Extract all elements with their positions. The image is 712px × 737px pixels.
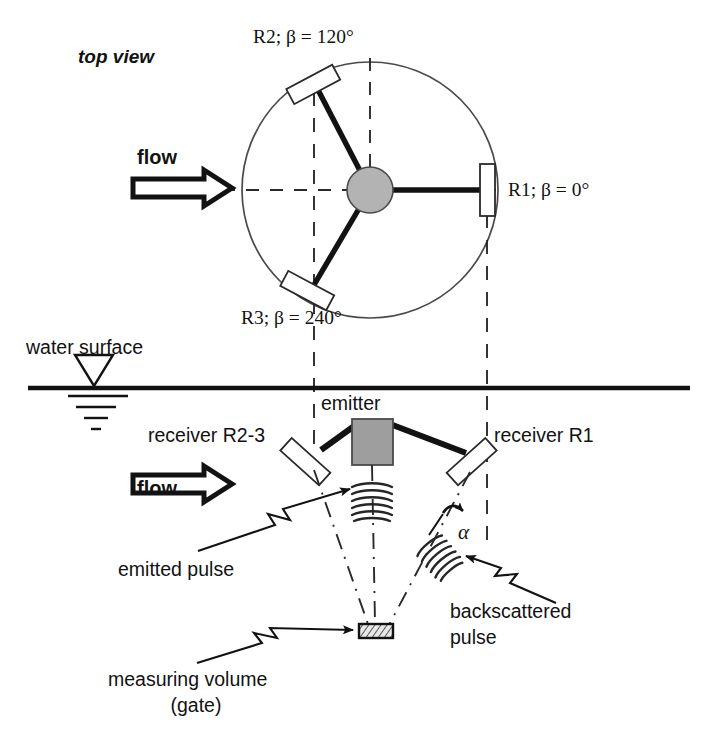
receiver-left-label: receiver R2-3	[148, 425, 265, 447]
alpha-angle-label: α	[458, 521, 469, 545]
receiver-head-r1	[480, 164, 495, 216]
emitter-axis	[372, 465, 375, 622]
receiver-r3-label: R3; β = 240°	[241, 307, 342, 329]
receiver-beam-left	[314, 470, 368, 624]
alpha-angle-caret	[443, 506, 463, 513]
receiver-head-r3	[280, 271, 334, 310]
receiver-right-label: receiver R1	[494, 425, 594, 447]
emitted-pulse-label: emitted pulse	[118, 559, 234, 581]
measuring-volume-gate	[359, 624, 393, 638]
backscattered-pulse-label-line2: pulse	[450, 627, 497, 649]
water-surface-label: water surface	[26, 337, 143, 359]
emitter-label: emitter	[321, 393, 381, 415]
alpha-angle-leg	[429, 514, 443, 535]
water-level-triangle	[75, 355, 113, 386]
receiver-r2-label: R2; β = 120°	[253, 26, 354, 48]
backscattered-pulse-pointer	[466, 556, 556, 603]
flow-arrow-top	[133, 170, 232, 206]
adv-probe-diagram: top view R2; β = 120° R1; β = 0° R3; β =…	[0, 0, 712, 737]
flow-label-top: flow	[137, 146, 177, 168]
emitted-pulse-pointer	[198, 489, 350, 551]
measuring-volume-pointer	[197, 628, 353, 663]
measuring-volume-label-line1: measuring volume	[108, 669, 267, 691]
flow-label-side: flow	[137, 477, 177, 499]
emitter-hub	[347, 167, 393, 213]
backscattered-pulse-symbol	[416, 533, 464, 582]
emitter-body	[352, 419, 393, 465]
side-arm-right	[390, 424, 466, 453]
top-view-label: top view	[78, 46, 154, 67]
measuring-volume-label-line2: (gate)	[108, 695, 284, 717]
side-receiver-head-right	[447, 438, 497, 485]
diagram-canvas	[0, 0, 712, 737]
receiver-r1-label: R1; β = 0°	[508, 179, 589, 201]
backscattered-pulse-label-line1: backscattered	[450, 601, 571, 623]
